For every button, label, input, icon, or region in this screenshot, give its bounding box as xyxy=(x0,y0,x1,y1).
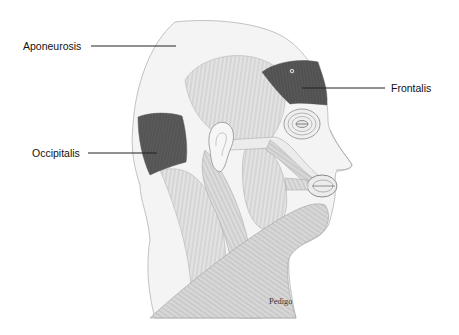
orbicularis-oris-muscle xyxy=(307,175,337,197)
orbicularis-oculi-muscle xyxy=(284,109,320,139)
label-occipitalis: Occipitalis xyxy=(32,147,80,159)
label-frontalis: Frontalis xyxy=(391,82,431,94)
illustrator-credit: Pedigo xyxy=(269,296,293,306)
risorius-muscle xyxy=(285,178,308,190)
label-aponeurosis: Aponeurosis xyxy=(23,40,81,52)
head-muscle-diagram: Aponeurosis Frontalis Occipitalis Pedigo xyxy=(0,0,459,335)
